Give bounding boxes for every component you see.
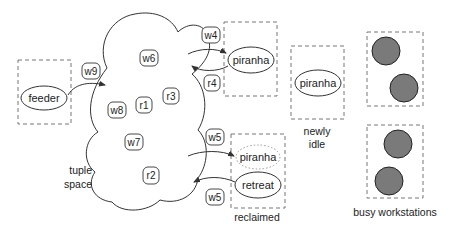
busy-workstation-icon bbox=[375, 167, 403, 195]
active-piranha-node: piranha bbox=[228, 47, 274, 73]
reclaimed-piranha-node: piranha bbox=[236, 145, 280, 169]
tuple-space-diagram: tuple space w6 w8 r1 r3 w7 r2 feeder w9 bbox=[0, 0, 449, 233]
svg-text:w8: w8 bbox=[110, 105, 124, 116]
reclaimed-caption: reclaimed bbox=[234, 211, 280, 223]
svg-text:r2: r2 bbox=[147, 170, 156, 181]
busy-workstation-icon bbox=[372, 37, 400, 65]
busy-workstation-icon bbox=[384, 130, 412, 158]
svg-text:w4: w4 bbox=[204, 30, 218, 41]
newly-idle-caption: newly idle bbox=[304, 125, 332, 150]
svg-text:w9: w9 bbox=[84, 66, 98, 77]
svg-text:retreat: retreat bbox=[242, 179, 274, 191]
svg-text:piranha: piranha bbox=[300, 77, 338, 89]
retreat-node: retreat bbox=[235, 172, 281, 198]
svg-text:feeder: feeder bbox=[28, 92, 60, 104]
svg-text:space: space bbox=[64, 178, 92, 190]
retreat-out-arrow bbox=[194, 178, 235, 183]
svg-text:w5: w5 bbox=[208, 192, 222, 203]
newly-idle-piranha-node: piranha bbox=[295, 70, 341, 96]
tuple-r3: r3 bbox=[163, 88, 179, 104]
svg-text:r1: r1 bbox=[140, 100, 149, 111]
tuple-w8: w8 bbox=[108, 102, 126, 118]
svg-text:w5: w5 bbox=[208, 132, 222, 143]
svg-text:w7: w7 bbox=[127, 137, 141, 148]
busy-workstations-caption: busy workstations bbox=[353, 206, 436, 218]
svg-text:newly: newly bbox=[304, 125, 332, 137]
svg-text:tuple: tuple bbox=[69, 164, 92, 176]
tag-w4: w4 bbox=[202, 27, 220, 43]
tuple-w6: w6 bbox=[140, 50, 158, 66]
svg-text:idle: idle bbox=[309, 138, 326, 150]
feeder-node: feeder bbox=[21, 86, 67, 110]
tag-w5-in: w5 bbox=[206, 129, 224, 145]
svg-text:r4: r4 bbox=[208, 78, 217, 89]
tuple-w7: w7 bbox=[125, 134, 143, 150]
svg-text:piranha: piranha bbox=[240, 151, 278, 163]
tuple-r2: r2 bbox=[143, 167, 159, 184]
svg-text:piranha: piranha bbox=[233, 54, 271, 66]
tag-w9: w9 bbox=[82, 63, 100, 79]
tag-w5-out: w5 bbox=[206, 189, 224, 205]
svg-text:w6: w6 bbox=[142, 53, 156, 64]
tag-r4: r4 bbox=[204, 75, 220, 91]
tuple-r1: r1 bbox=[136, 97, 152, 113]
busy-workstation-icon bbox=[390, 74, 418, 102]
tuple-space-label: tuple space bbox=[64, 164, 92, 190]
svg-text:r3: r3 bbox=[167, 91, 176, 102]
